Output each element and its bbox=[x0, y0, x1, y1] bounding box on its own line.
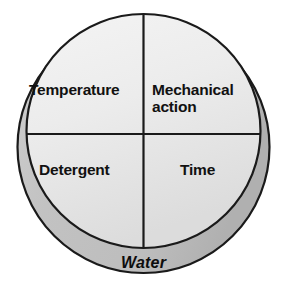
sinner-circle-diagram: Temperature Mechanical action Detergent … bbox=[0, 0, 287, 290]
quadrant-label-detergent: Detergent bbox=[39, 161, 149, 178]
quadrant-label-mechanical-action: Mechanical action bbox=[152, 81, 262, 115]
rim-label-water: Water bbox=[0, 254, 287, 272]
quadrant-label-time: Time bbox=[180, 161, 260, 178]
disc-graphic bbox=[0, 0, 287, 290]
quadrant-label-temperature: Temperature bbox=[29, 81, 141, 98]
